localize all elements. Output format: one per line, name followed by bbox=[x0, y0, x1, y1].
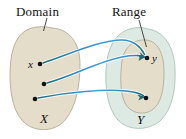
point-x-dot bbox=[38, 62, 43, 67]
range-label: Range bbox=[112, 5, 146, 18]
function-mapping-diagram: Domain Range x y X Y bbox=[0, 0, 186, 139]
domain-set-label: X bbox=[40, 112, 48, 125]
domain-label: Domain bbox=[16, 5, 59, 18]
codomain-set-label: Y bbox=[137, 113, 144, 126]
point-x-label: x bbox=[28, 59, 33, 70]
point-low-dot bbox=[33, 97, 38, 102]
point-y-dot bbox=[145, 56, 150, 61]
point-lower-dot bbox=[144, 96, 149, 101]
point-mid-dot bbox=[42, 82, 47, 87]
point-y-label: y bbox=[152, 53, 157, 64]
